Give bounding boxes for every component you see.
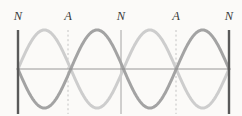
axis-label-node-right: N (219, 10, 239, 23)
axis-label-antinode-left: A (58, 10, 78, 23)
axis-label-antinode-right: A (166, 10, 186, 23)
axis-label-node-middle: N (111, 10, 131, 23)
axis-label-node-left: N (8, 10, 28, 23)
standing-wave-figure: N A N A N (0, 0, 242, 116)
